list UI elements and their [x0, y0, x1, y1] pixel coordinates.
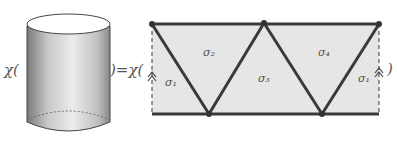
chi-open: χ(	[4, 61, 19, 79]
simplex-label: σ₂	[203, 46, 215, 59]
equals-chi-open: )=χ(	[110, 61, 143, 79]
simplex-label: σ₁	[165, 76, 177, 89]
triangulation	[148, 20, 383, 117]
vertex	[206, 111, 212, 117]
figure	[0, 0, 397, 143]
cylinder-top-rim	[27, 14, 110, 34]
simplex-label: σ₄	[318, 46, 330, 59]
simplex-label: σ₃	[258, 72, 270, 85]
chi-close: )	[387, 60, 393, 78]
cylinder	[27, 14, 110, 131]
vertex	[261, 20, 267, 26]
vertex	[319, 111, 325, 117]
simplex-label: σ₁	[358, 72, 370, 85]
vertex	[376, 21, 382, 27]
vertex	[149, 21, 155, 27]
